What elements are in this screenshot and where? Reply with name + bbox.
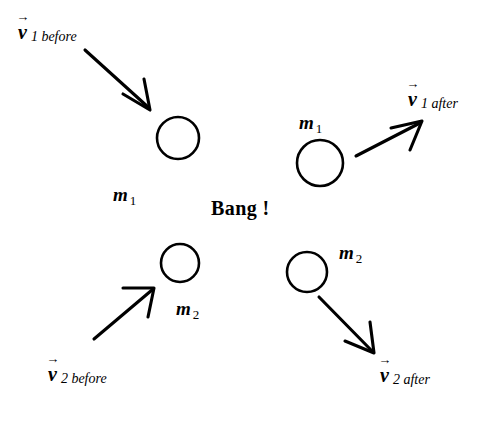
mass-symbol-m: m [339, 242, 354, 263]
vector-arrow-v2-before [94, 288, 154, 339]
mass-circle-m2-after [287, 252, 327, 292]
mass-subscript: 2 [191, 307, 200, 322]
mass-label-m2-before: m2 [176, 299, 199, 321]
mass-symbol-m: m [299, 112, 314, 133]
vector-label-v1-after: →v1 after [408, 89, 458, 111]
mass-label-m1-after: m1 [299, 113, 322, 135]
vector-arrow-accent-icon: → [46, 352, 59, 365]
collision-diagram: →v1 before →v1 after →v2 before →v2 afte… [0, 0, 494, 426]
vector-arrow-v1-after [356, 121, 422, 156]
vector-label-v2-before: →v2 before [48, 364, 107, 386]
mass-subscript: 1 [128, 193, 137, 208]
vector-subscript: 2 before [58, 371, 107, 386]
mass-symbol-m: m [176, 298, 191, 319]
vector-symbol-v: →v [380, 364, 390, 386]
mass-circle-m1-after [297, 140, 343, 186]
vector-subscript: 1 before [28, 29, 77, 44]
mass-circle-m2-before [161, 244, 199, 282]
vector-subscript: 2 after [390, 372, 430, 387]
mass-symbol-m: m [113, 184, 128, 205]
mass-label-m1-before: m1 [113, 185, 136, 207]
vector-symbol-v: →v [18, 21, 28, 43]
vector-arrow-v1-before [85, 50, 150, 110]
mass-subscript: 1 [314, 121, 323, 136]
collision-annotation: Bang ! [211, 198, 270, 218]
vector-arrow-v2-after [319, 297, 374, 353]
vector-arrow-accent-icon: → [406, 77, 419, 90]
vector-arrow-accent-icon: → [378, 353, 391, 366]
vector-symbol-v: →v [408, 88, 418, 110]
vector-label-v2-after: →v2 after [380, 365, 430, 387]
mass-circle-m1-before [157, 117, 199, 159]
vector-arrow-accent-icon: → [16, 10, 29, 23]
vector-subscript: 1 after [418, 96, 458, 111]
vector-symbol-v: →v [48, 363, 58, 385]
mass-subscript: 2 [354, 251, 363, 266]
mass-label-m2-after: m2 [339, 243, 362, 265]
vector-label-v1-before: →v1 before [18, 22, 77, 44]
